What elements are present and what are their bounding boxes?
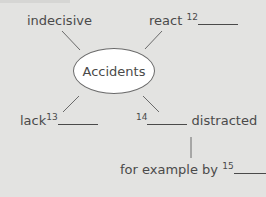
blank-number-15: 15 — [222, 161, 233, 171]
connector-distracted — [143, 96, 159, 112]
node-react: react 12 — [149, 13, 238, 30]
connector-react — [145, 31, 162, 49]
blank-number-14: 14 — [136, 112, 147, 122]
connector-indecisive — [62, 31, 80, 50]
blank-number-12: 12 — [186, 12, 197, 22]
center-node: Accidents — [73, 48, 155, 94]
center-label: Accidents — [83, 64, 146, 79]
answer-blank-13[interactable] — [58, 113, 98, 125]
answer-blank-14[interactable] — [147, 113, 187, 125]
node-indecisive: indecisive — [27, 13, 92, 29]
connector-lack — [63, 96, 79, 112]
answer-blank-15[interactable] — [234, 162, 266, 174]
node-distracted: 14 distracted — [136, 113, 257, 130]
blank-number-13: 13 — [46, 112, 57, 122]
node-lack: lack13 — [20, 113, 98, 130]
answer-blank-12[interactable] — [198, 13, 238, 25]
node-example: for example by 15 — [120, 162, 266, 179]
